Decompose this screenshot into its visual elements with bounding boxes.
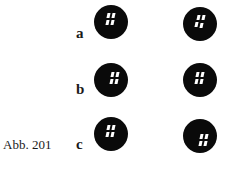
mark-icon [106,13,110,18]
mark-icon [111,125,115,130]
mark-icon [111,13,115,18]
mark-icon [110,132,114,137]
disc-c-left [94,117,128,151]
mark-icon [106,125,110,130]
mark-icon [114,79,118,84]
mark-icon [109,79,113,84]
mark-icon [199,79,203,84]
caption: Abb. 201 [3,137,51,153]
mark-icon [115,72,119,77]
mark-icon [194,79,198,84]
mark-icon [199,23,203,28]
mark-icon [105,132,109,137]
disc-a-right [183,7,217,41]
mark-icon [200,72,204,77]
row-label-c: c [76,136,83,153]
mark-icon [196,15,200,20]
disc-c-right [183,119,217,153]
mark-icon [204,134,208,139]
row-label-b: b [76,81,84,98]
mark-icon [201,15,205,20]
disc-b-right [183,63,217,97]
mark-icon [110,20,114,25]
mark-icon [198,141,202,146]
mark-icon [105,20,109,25]
mark-icon [203,141,207,146]
mark-icon [199,134,203,139]
row-label-a: a [76,25,84,42]
disc-a-left [94,5,128,39]
disc-b-left [94,63,128,97]
mark-icon [194,22,198,27]
mark-icon [195,72,199,77]
mark-icon [110,72,114,77]
